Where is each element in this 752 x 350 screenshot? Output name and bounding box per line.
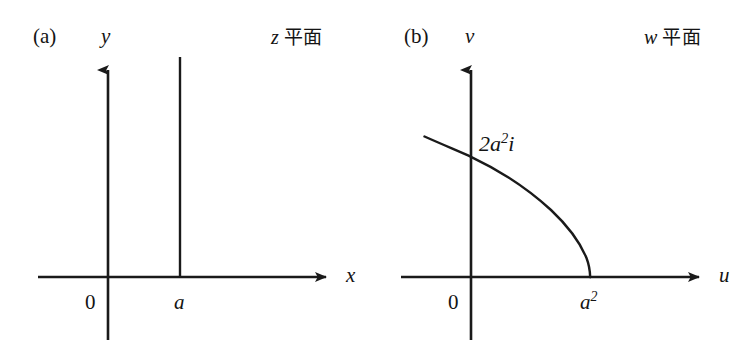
tick-label-a-squared-exponent: 2 (591, 289, 598, 304)
panel-b-label: (b) (404, 26, 429, 47)
z-plane-word: 平面 (284, 26, 323, 48)
panel-b-origin-label: 0 (448, 292, 459, 313)
y-axis-label: y (101, 26, 110, 47)
tick-label-a: a (174, 292, 185, 313)
z-plane-caption: z平面 (271, 27, 323, 47)
figure-canvas (0, 0, 752, 350)
x-axis-label: x (346, 265, 355, 286)
w-plane-symbol: w (644, 26, 657, 48)
w-plane-word: 平面 (662, 26, 701, 48)
figure-root: (a) y x z平面 0 a (b) v u w平面 0 a2 2a2i (0, 0, 752, 350)
tick-label-a-squared-base: a (580, 290, 591, 314)
panel-b-graphics (401, 70, 699, 340)
annotation-suffix: i (508, 131, 514, 156)
parabola-curve (425, 137, 591, 278)
annotation-2a-squared-i: 2a2i (479, 133, 514, 155)
annotation-base: a (490, 131, 501, 156)
z-plane-symbol: z (271, 26, 279, 48)
annotation-prefix: 2 (479, 131, 490, 156)
u-axis-label: u (719, 265, 730, 286)
w-plane-caption: w平面 (644, 27, 701, 47)
panel-a-label: (a) (33, 26, 56, 47)
v-axis-label: v (465, 26, 474, 47)
tick-label-a-squared: a2 (580, 292, 597, 313)
panel-a-origin-label: 0 (85, 292, 96, 313)
